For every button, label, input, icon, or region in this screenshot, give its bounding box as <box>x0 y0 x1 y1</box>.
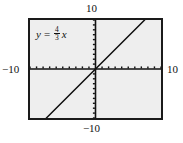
axis-label-right: 10 <box>167 63 178 75</box>
equation-fraction: 4 3 <box>54 26 60 43</box>
equation-annotation: y = 4 3 x <box>36 26 67 43</box>
axis-label-left: −10 <box>2 63 19 75</box>
axis-label-top: 10 <box>0 2 183 14</box>
equation-numerator: 4 <box>54 26 60 34</box>
graph-figure: 10 −10 10 −10 y = 4 3 x <box>0 0 183 143</box>
equation-variable: x <box>62 29 67 40</box>
equation-denominator: 3 <box>54 33 60 42</box>
calculator-viewport: y = 4 3 x <box>28 18 163 120</box>
equation-lhs: y <box>36 29 41 40</box>
axis-label-bottom: −10 <box>0 122 183 134</box>
equation-relation: = <box>44 29 50 40</box>
